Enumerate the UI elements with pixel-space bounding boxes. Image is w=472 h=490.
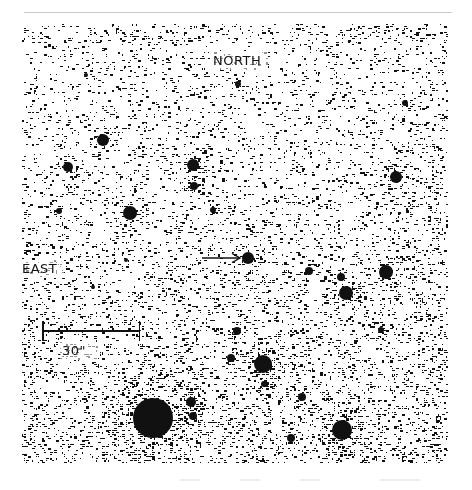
sky-field-image: NORTH EAST 30" xyxy=(22,24,448,463)
bottom-faint-marks xyxy=(180,478,420,482)
star-field-canvas xyxy=(22,24,448,463)
top-divider-line xyxy=(24,12,452,13)
scale-bar xyxy=(42,330,140,332)
scale-bar-label: 30" xyxy=(62,344,86,357)
east-label: EAST xyxy=(22,262,57,275)
north-label: NORTH xyxy=(213,54,261,67)
arrow-right-icon xyxy=(202,253,242,263)
